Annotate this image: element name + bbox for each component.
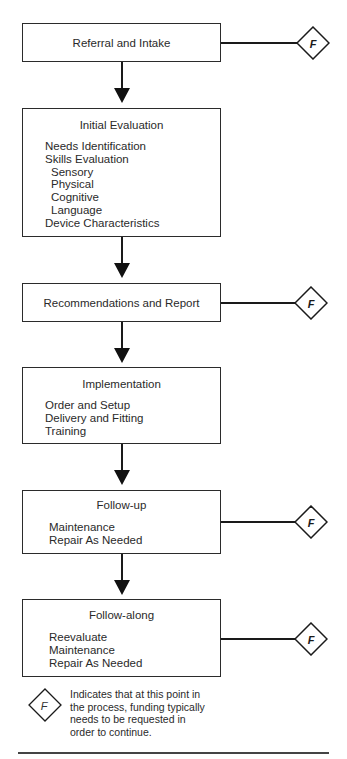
legend-line: needs to be requested in — [70, 713, 210, 726]
funding-connector — [221, 42, 297, 44]
legend-description: Indicates that at this point in the proc… — [70, 688, 210, 738]
step-subitem: Physical — [45, 178, 220, 191]
step-title: Follow-up — [23, 498, 220, 512]
step-item: Needs Identification — [45, 140, 220, 153]
funding-marker-label: F — [308, 298, 315, 310]
step-recommendations-report: Recommendations and Report — [22, 283, 221, 322]
flow-line — [121, 444, 123, 472]
flow-line — [121, 237, 123, 265]
legend-line: Indicates that at this point in — [70, 688, 210, 701]
step-referral-intake: Referral and Intake — [22, 23, 221, 62]
step-follow-up: Follow-up Maintenance Repair As Needed — [22, 490, 221, 554]
step-item: Order and Setup — [45, 399, 220, 412]
step-subitem: Sensory — [45, 166, 220, 179]
bottom-divider — [18, 752, 329, 754]
legend-line: the process, funding typically — [70, 701, 210, 714]
step-item: Maintenance — [49, 644, 220, 657]
step-title: Follow-along — [23, 608, 220, 622]
arrow-down-icon — [114, 263, 130, 278]
step-title: Recommendations and Report — [23, 296, 220, 310]
arrow-down-icon — [114, 470, 130, 485]
step-initial-evaluation: Initial Evaluation Needs Identification … — [22, 108, 221, 237]
step-item: Repair As Needed — [49, 657, 220, 670]
step-item: Maintenance — [49, 521, 220, 534]
arrow-down-icon — [114, 88, 130, 103]
step-item: Delivery and Fitting — [45, 412, 220, 425]
funding-diamond-icon: F — [294, 505, 328, 539]
step-item: Repair As Needed — [49, 534, 220, 547]
step-title: Implementation — [23, 377, 220, 391]
step-item: Training — [45, 425, 220, 438]
step-implementation: Implementation Order and Setup Delivery … — [22, 367, 221, 444]
funding-connector — [221, 638, 295, 640]
funding-diamond-icon: F — [294, 622, 328, 656]
legend-line: order to continue. — [70, 726, 210, 739]
step-follow-along: Follow-along Reevaluate Maintenance Repa… — [22, 599, 221, 677]
funding-connector — [221, 302, 295, 304]
step-title: Initial Evaluation — [23, 118, 220, 132]
flow-line — [121, 322, 123, 350]
arrow-down-icon — [114, 348, 130, 363]
funding-diamond-icon: F — [296, 26, 330, 60]
legend-funding-diamond-icon: F — [28, 688, 62, 722]
funding-marker-label: F — [308, 634, 315, 646]
step-item-list: Maintenance Repair As Needed — [23, 521, 220, 547]
step-item-list: Reevaluate Maintenance Repair As Needed — [23, 631, 220, 669]
step-item-list: Needs Identification Skills Evaluation S… — [23, 140, 220, 230]
step-item-list: Order and Setup Delivery and Fitting Tra… — [23, 399, 220, 437]
step-item: Device Characteristics — [45, 217, 220, 230]
step-item: Reevaluate — [49, 631, 220, 644]
flow-line — [121, 554, 123, 581]
arrow-down-icon — [114, 580, 130, 595]
funding-marker-label: F — [308, 517, 315, 529]
funding-diamond-icon: F — [294, 286, 328, 320]
step-item: Skills Evaluation — [45, 153, 220, 166]
step-subitem: Language — [45, 204, 220, 217]
step-title: Referral and Intake — [23, 36, 220, 50]
step-subitem: Cognitive — [45, 191, 220, 204]
funding-marker-label: F — [310, 38, 317, 50]
flow-line — [121, 62, 123, 90]
funding-connector — [221, 521, 295, 523]
